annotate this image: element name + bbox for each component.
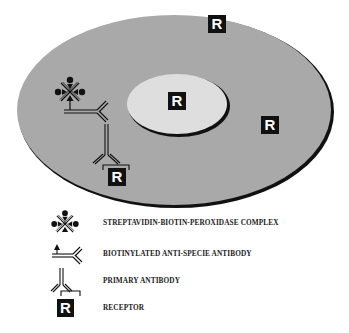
receptor-surface-top: R [208, 15, 226, 33]
receptor-cytoplasm: R [261, 116, 279, 134]
legend-label-receptor: RECEPTOR [103, 303, 144, 312]
receptor-nucleus: R [168, 92, 186, 110]
legend-receptor-icon: R [57, 299, 74, 317]
legend-complex-icon [51, 210, 78, 232]
legend-label-primary-antibody: PRIMARY ANTIBODY [103, 276, 180, 285]
legend-biotinylated-antibody-icon [52, 244, 82, 264]
immunohistochemistry-diagram: R R R R R STREPTAVIDIN-BIOTIN-PEROXIDASE… [0, 0, 349, 333]
legend-primary-antibody-icon [51, 268, 80, 296]
receptor-bound: R [108, 168, 126, 186]
legend-label-biotinylated-antibody: BIOTINYLATED ANTI-SPECIE ANTIBODY [103, 249, 252, 258]
legend-label-complex: STREPTAVIDIN-BIOTIN-PEROXIDASE COMPLEX [103, 218, 279, 227]
